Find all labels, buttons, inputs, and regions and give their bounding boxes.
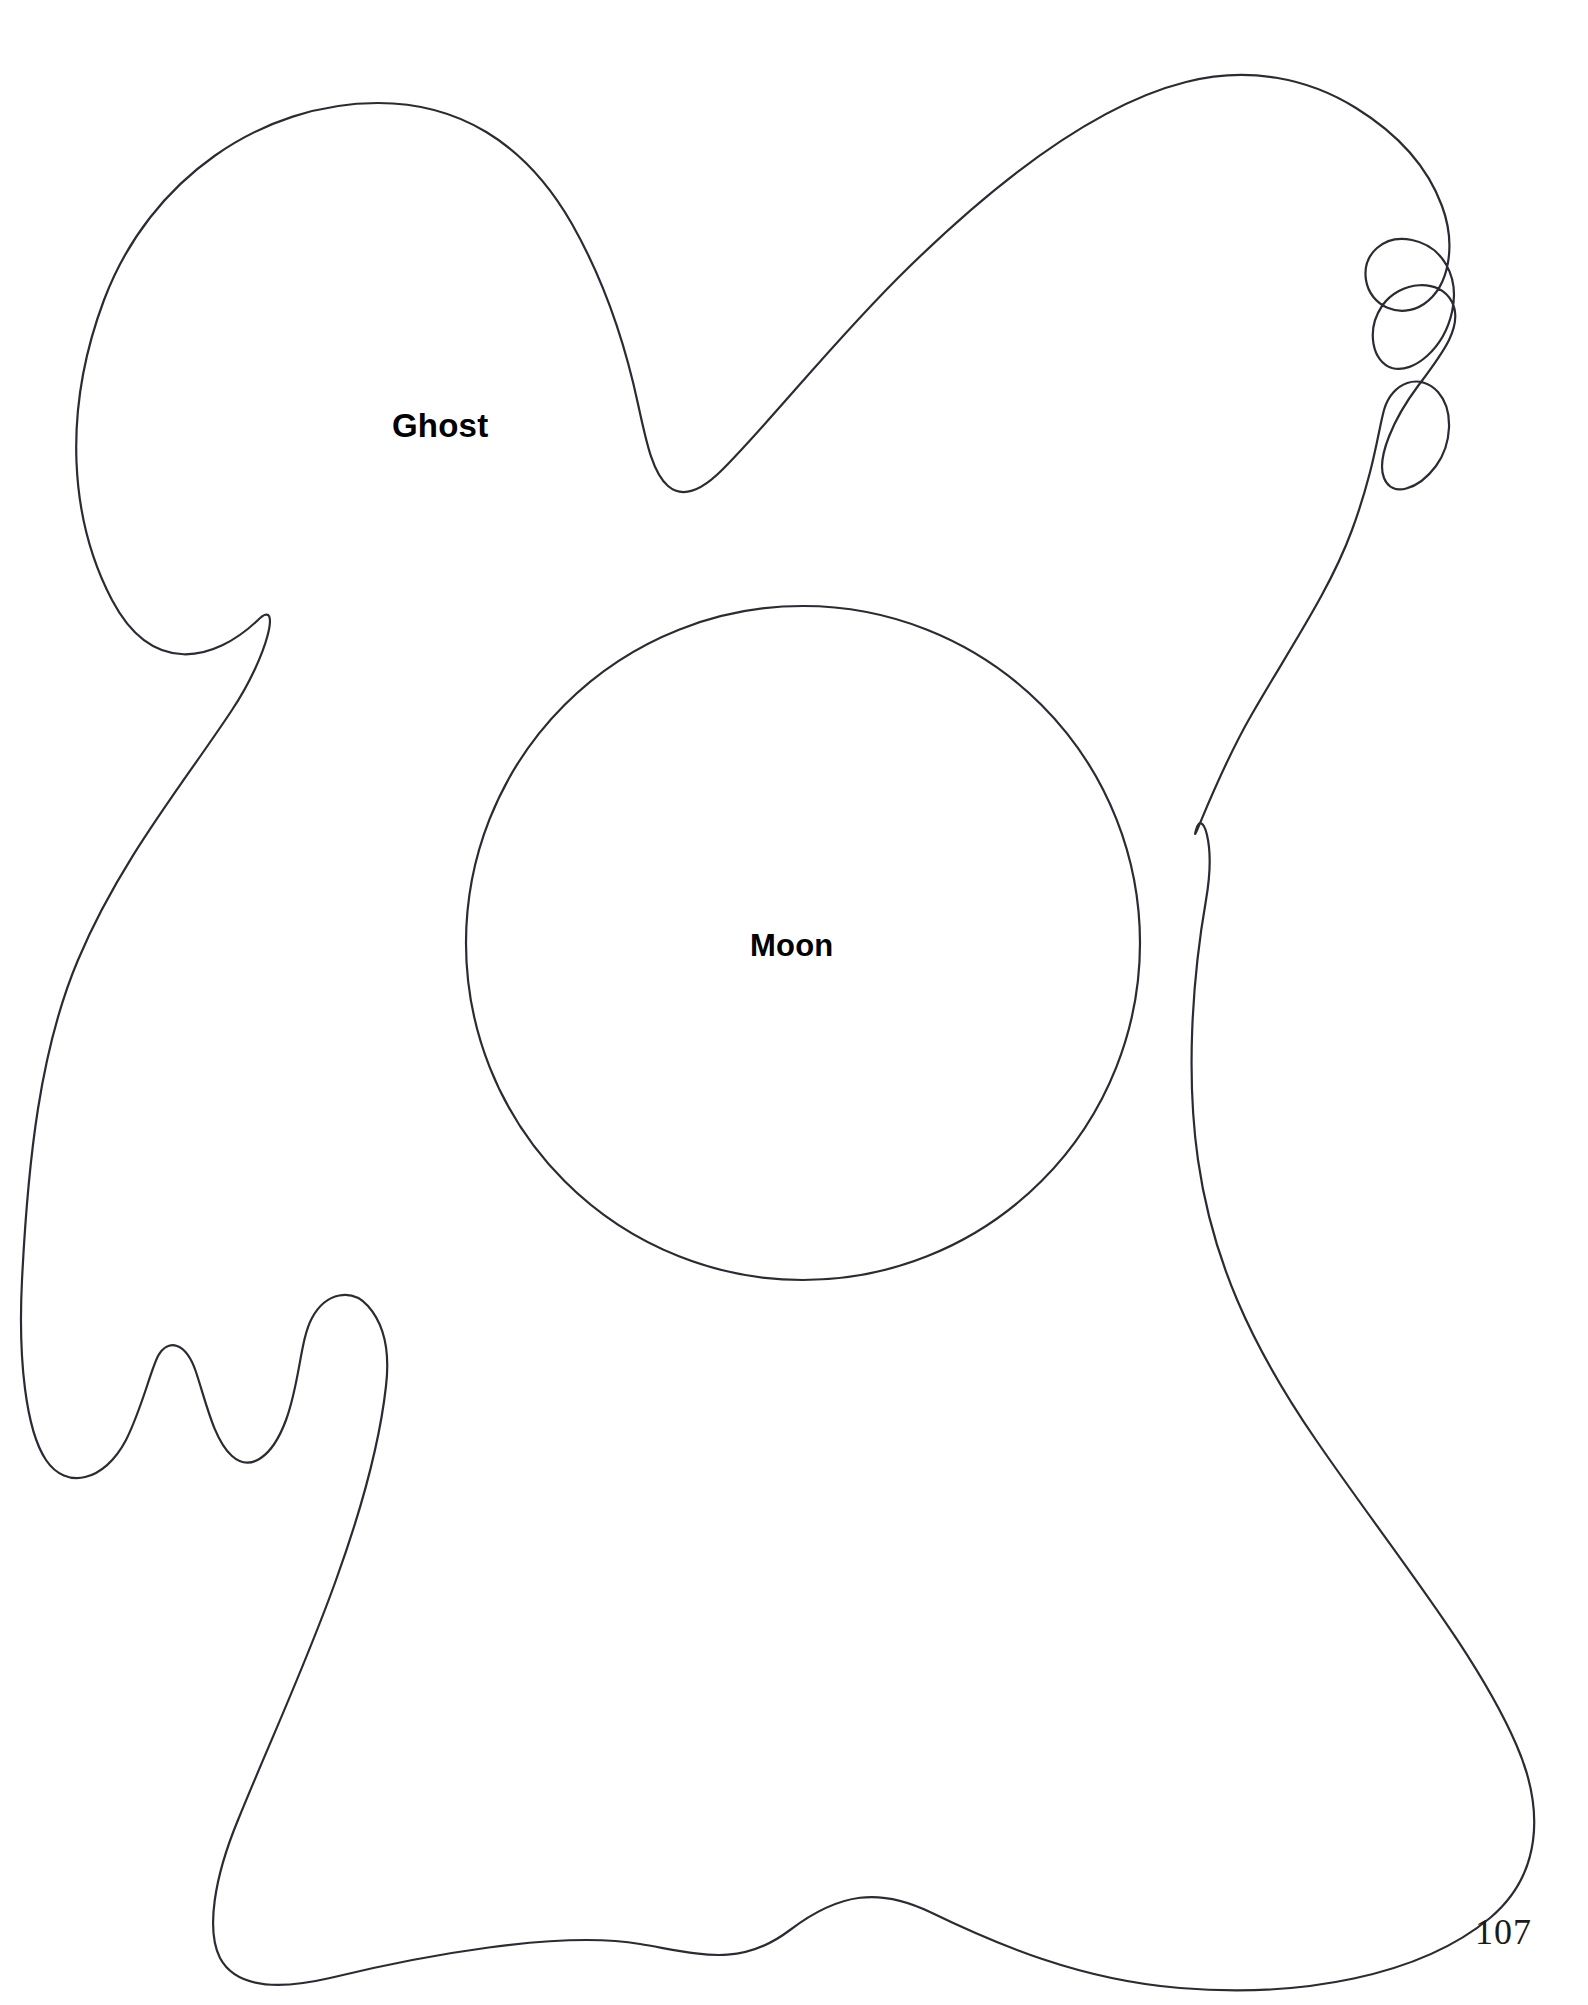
ghost-piece-label: Ghost [392,407,488,445]
page-number: 107 [1475,1911,1532,1953]
ghost-outline-path [21,75,1534,1990]
pattern-page: Ghost Moon 107 [0,0,1588,2005]
pattern-drawing [0,0,1588,2005]
moon-piece-label: Moon [750,928,833,964]
